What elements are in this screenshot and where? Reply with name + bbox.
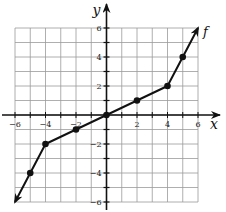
y-tick-label: −6: [90, 198, 102, 207]
data-point: [134, 97, 141, 104]
x-axis-label: x: [210, 116, 218, 132]
y-axis-label: y: [92, 2, 102, 18]
x-tick-label: 4: [165, 120, 170, 129]
data-point: [42, 141, 49, 148]
y-tick-label: 6: [96, 24, 101, 33]
data-point: [179, 54, 186, 61]
x-tick-label: −6: [9, 120, 21, 129]
function-label: f: [202, 24, 210, 39]
axes: [2, 4, 220, 210]
function-graph: −6−4−2246642−2−4−6 x y f: [0, 0, 226, 212]
data-point: [27, 170, 34, 177]
data-point: [73, 126, 80, 133]
x-tick-label: −4: [40, 120, 52, 129]
data-point: [103, 112, 110, 119]
x-tick-label: 6: [195, 120, 200, 129]
y-tick-label: 2: [96, 82, 101, 91]
x-tick-label: 2: [134, 120, 139, 129]
data-point: [164, 83, 171, 90]
y-tick-label: 4: [96, 53, 101, 62]
y-tick-label: −4: [90, 169, 102, 178]
y-tick-label: −2: [90, 140, 102, 149]
